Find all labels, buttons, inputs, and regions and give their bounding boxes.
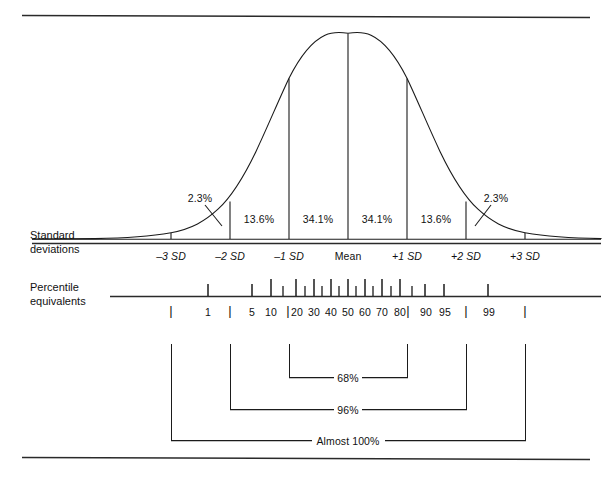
standard-deviations-axis-label: Standard deviations [30,229,80,256]
region-label-34-1-right: 34.1% [362,213,392,225]
bottom-rule [22,458,590,460]
percentile-label-90: 90 [420,306,432,318]
percentile-label-10: 10 [265,306,277,318]
sd-tick-label-plus1: +1 SD [392,250,422,262]
sd-tick-label-minus3: –3 SD [156,250,186,262]
top-rule [22,16,590,18]
figure-vector-layer [0,0,610,477]
percentile-label-5: 5 [249,306,255,318]
percentile-equivalents-label-line1: Percentile [30,281,79,293]
percentile-separator-minus1sd: | [286,305,289,317]
standard-deviations-label-line2: deviations [30,243,80,255]
bell-curve [32,32,601,239]
percentile-separator-plus1sd: | [406,305,409,317]
percentile-separator-minus3sd: | [169,305,172,317]
percentile-label-80: 80 [394,306,406,318]
bracket-label-almost-100: Almost 100% [317,435,380,447]
region-label-2-3-right: 2.3% [484,192,508,204]
percentile-label-1: 1 [205,306,211,318]
sd-tick-label-plus2: +2 SD [451,250,481,262]
region-label-13-6-right: 13.6% [421,213,451,225]
percentile-separator-plus3sd: | [523,305,526,317]
percentile-equivalents-label-line2: equivalents [30,295,86,307]
percentile-label-60: 60 [359,306,371,318]
sd-tick-label-minus1: –1 SD [274,250,304,262]
percentile-label-20: 20 [291,306,303,318]
percentile-label-70: 70 [376,306,388,318]
bracket-label-96: 96% [337,404,358,416]
percentile-separator-minus2sd: | [228,305,231,317]
bracket-label-68: 68% [337,372,358,384]
normal-distribution-figure: Standard deviations Percentile equivalen… [0,0,610,477]
bracket-almost-100 [171,344,526,441]
percentile-label-99: 99 [483,306,495,318]
sd-tick-label-mean: Mean [335,250,362,262]
percentile-separator-plus2sd: | [464,305,467,317]
percentile-equivalents-axis-label: Percentile equivalents [30,281,86,308]
sd-tick-label-plus3: +3 SD [510,250,540,262]
percentile-label-30: 30 [308,306,320,318]
region-label-34-1-left: 34.1% [303,213,333,225]
region-label-2-3-left: 2.3% [188,192,212,204]
percentile-label-50: 50 [342,306,354,318]
region-label-13-6-left: 13.6% [244,213,274,225]
percentile-label-40: 40 [325,306,337,318]
percentile-label-95: 95 [439,306,451,318]
percentile-tick-marks [208,279,488,296]
sd-tick-label-minus2: –2 SD [215,250,245,262]
standard-deviations-label-line1: Standard [30,229,75,241]
